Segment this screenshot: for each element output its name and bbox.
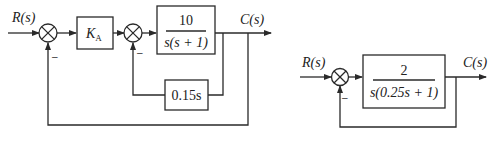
left-output-label: C(s)	[240, 12, 264, 28]
left-plant-numerator: 10	[179, 13, 193, 28]
left-sum1-minus-sign: –	[52, 51, 58, 62]
right-plant-numerator: 2	[401, 63, 408, 78]
right-output-label: C(s)	[463, 55, 487, 71]
block-diagrams: R(s) – KA – 10 s(s + 1)	[0, 0, 496, 141]
left-summing-junction-2	[124, 24, 142, 42]
left-plant-denominator: s(s + 1)	[164, 35, 208, 51]
right-summing-junction	[332, 69, 349, 86]
left-inner-feedback-label: 0.15s	[172, 88, 202, 103]
left-summing-junction-1	[39, 24, 57, 42]
left-input-label: R(s)	[11, 10, 36, 26]
left-diagram: R(s) – KA – 10 s(s + 1)	[8, 6, 271, 125]
right-sum-minus-sign: –	[342, 92, 348, 103]
left-sum2-minus-sign: –	[137, 47, 143, 58]
right-input-label: R(s)	[301, 55, 326, 71]
right-diagram: R(s) – 2 s(0.25s + 1) C(s)	[300, 55, 487, 127]
right-plant-denominator: s(0.25s + 1)	[370, 85, 439, 101]
